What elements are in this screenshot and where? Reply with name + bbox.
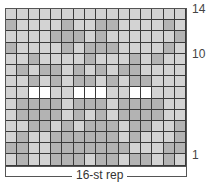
chart-cell bbox=[141, 143, 152, 154]
chart-cell bbox=[96, 121, 107, 132]
chart-cell bbox=[62, 20, 73, 31]
chart-cell bbox=[96, 31, 107, 42]
chart-grid bbox=[5, 8, 187, 167]
chart-cell bbox=[17, 110, 28, 121]
chart-cell bbox=[164, 87, 175, 98]
chart-cell bbox=[141, 99, 152, 110]
chart-cell bbox=[119, 65, 130, 76]
chart-cell bbox=[85, 65, 96, 76]
chart-cell bbox=[85, 121, 96, 132]
chart-cell bbox=[62, 121, 73, 132]
chart-cell bbox=[62, 31, 73, 42]
chart-cell bbox=[6, 121, 17, 132]
chart-cell bbox=[152, 20, 163, 31]
chart-cell bbox=[40, 65, 51, 76]
chart-cell bbox=[175, 143, 186, 154]
chart-cell bbox=[141, 76, 152, 87]
chart-cell bbox=[85, 110, 96, 121]
chart-cell bbox=[51, 20, 62, 31]
chart-cell bbox=[164, 20, 175, 31]
chart-cell bbox=[85, 54, 96, 65]
chart-cell bbox=[29, 132, 40, 143]
chart-cell bbox=[62, 43, 73, 54]
chart-cell bbox=[107, 65, 118, 76]
chart-cell bbox=[152, 143, 163, 154]
chart-cell bbox=[96, 87, 107, 98]
chart-cell bbox=[74, 65, 85, 76]
chart-cell bbox=[119, 43, 130, 54]
chart-cell bbox=[40, 31, 51, 42]
chart-cell bbox=[17, 9, 28, 20]
chart-cell bbox=[62, 87, 73, 98]
chart-cell bbox=[164, 110, 175, 121]
chart-cell bbox=[29, 20, 40, 31]
chart-cell bbox=[62, 154, 73, 165]
chart-cell bbox=[6, 154, 17, 165]
chart-cell bbox=[40, 54, 51, 65]
chart-cell bbox=[152, 9, 163, 20]
chart-cell bbox=[29, 99, 40, 110]
chart-cell bbox=[17, 154, 28, 165]
chart-cell bbox=[6, 54, 17, 65]
chart-cell bbox=[96, 20, 107, 31]
chart-cell bbox=[141, 132, 152, 143]
chart-cell bbox=[152, 43, 163, 54]
chart-cell bbox=[175, 87, 186, 98]
chart-cell bbox=[29, 87, 40, 98]
chart-cell bbox=[175, 9, 186, 20]
chart-cell bbox=[74, 132, 85, 143]
chart-cell bbox=[74, 43, 85, 54]
chart-cell bbox=[51, 9, 62, 20]
chart-cell bbox=[29, 54, 40, 65]
chart-cell bbox=[119, 87, 130, 98]
chart-cell bbox=[17, 43, 28, 54]
chart-cell bbox=[29, 143, 40, 154]
chart-cell bbox=[96, 143, 107, 154]
chart-cell bbox=[6, 31, 17, 42]
chart-cell bbox=[74, 76, 85, 87]
chart-cell bbox=[141, 87, 152, 98]
chart-cell bbox=[51, 65, 62, 76]
chart-cell bbox=[96, 76, 107, 87]
chart-cell bbox=[6, 43, 17, 54]
chart-cell bbox=[29, 31, 40, 42]
chart-cell bbox=[40, 121, 51, 132]
chart-cell bbox=[74, 99, 85, 110]
chart-cell bbox=[152, 121, 163, 132]
chart-cell bbox=[40, 43, 51, 54]
chart-cell bbox=[175, 132, 186, 143]
chart-cell bbox=[175, 121, 186, 132]
row-label-1: 1 bbox=[192, 148, 199, 162]
chart-cell bbox=[141, 54, 152, 65]
chart-cell bbox=[85, 99, 96, 110]
chart-cell bbox=[85, 87, 96, 98]
chart-cell bbox=[51, 99, 62, 110]
chart-cell bbox=[29, 154, 40, 165]
chart-cell bbox=[119, 110, 130, 121]
chart-cell bbox=[74, 121, 85, 132]
chart-cell bbox=[17, 65, 28, 76]
chart-cell bbox=[107, 43, 118, 54]
chart-cell bbox=[6, 76, 17, 87]
chart-cell bbox=[107, 132, 118, 143]
chart-cell bbox=[17, 31, 28, 42]
chart-cell bbox=[152, 99, 163, 110]
chart-cell bbox=[119, 76, 130, 87]
chart-cell bbox=[130, 132, 141, 143]
chart-cell bbox=[130, 9, 141, 20]
chart-cell bbox=[74, 87, 85, 98]
repeat-label: 16-st rep bbox=[72, 168, 127, 182]
chart-cell bbox=[141, 154, 152, 165]
chart-cell bbox=[119, 143, 130, 154]
chart-cell bbox=[74, 154, 85, 165]
chart-cell bbox=[107, 143, 118, 154]
chart-cell bbox=[164, 121, 175, 132]
chart-cell bbox=[74, 31, 85, 42]
chart-cell bbox=[152, 31, 163, 42]
chart-cell bbox=[175, 65, 186, 76]
chart-cell bbox=[152, 54, 163, 65]
chart-cell bbox=[74, 143, 85, 154]
chart-cell bbox=[175, 99, 186, 110]
chart-cell bbox=[130, 54, 141, 65]
chart-cell bbox=[85, 154, 96, 165]
